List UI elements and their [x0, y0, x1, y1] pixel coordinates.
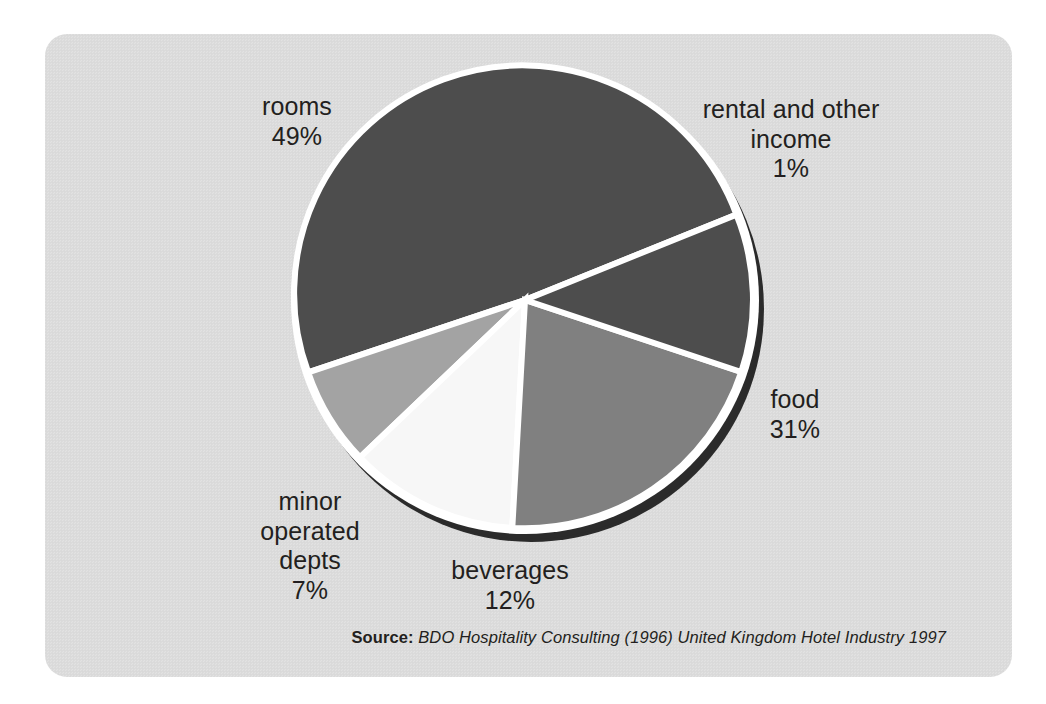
pie-label-minor-name-line3: depts: [215, 546, 405, 576]
pie-label-minor-operated-depts: minor operated depts 7%: [215, 487, 405, 605]
source-note: Source: BDO Hospitality Consulting (1996…: [126, 628, 946, 647]
pie-label-rental-value: 1%: [662, 154, 920, 184]
pie-label-food-name: food: [770, 385, 819, 413]
pie-label-minor-value: 7%: [215, 576, 405, 606]
pie-label-beverages-value: 12%: [400, 586, 620, 616]
pie-label-rental-and-other-income: rental and other income 1%: [662, 95, 920, 184]
pie-label-rental-name-line2: income: [662, 125, 920, 155]
figure-root: rooms 49% rental and other income 1% foo…: [0, 0, 1046, 704]
pie-label-food-value: 31%: [725, 415, 865, 445]
source-label: Source:: [351, 628, 413, 646]
pie-label-food: food 31%: [725, 385, 865, 444]
pie-label-rooms: rooms 49%: [222, 92, 372, 151]
pie-label-rooms-value: 49%: [222, 122, 372, 152]
pie-label-minor-name-line1: minor: [278, 487, 341, 515]
pie-label-rooms-name: rooms: [262, 92, 332, 120]
pie-label-rental-name-line1: rental and other: [703, 95, 880, 123]
pie-label-beverages-name: beverages: [451, 556, 569, 584]
pie-label-minor-name-line2: operated: [215, 517, 405, 547]
source-citation: BDO Hospitality Consulting (1996) United…: [418, 628, 946, 646]
pie-label-beverages: beverages 12%: [400, 556, 620, 615]
